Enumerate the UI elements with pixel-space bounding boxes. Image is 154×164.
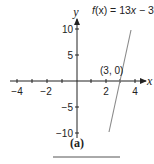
x-tick-label: 4	[132, 86, 138, 97]
x-tick-label: 2	[103, 86, 109, 97]
y-tick-label: 5	[67, 50, 73, 61]
y-axis-label: y	[72, 5, 79, 19]
y-tick-label: −5	[62, 102, 74, 113]
x-tick-label: −2	[40, 86, 52, 97]
x-axis-label: x	[146, 74, 153, 88]
function-label: f(x) = 13x − 39	[92, 4, 154, 16]
function-graph: −4 −2 2 4 10 5 −5 −10 x y f(x) = 13x − 3…	[0, 0, 154, 164]
y-tick-label: 10	[62, 24, 74, 35]
intercept-label: (3, 0)	[100, 65, 123, 76]
figure-caption: (a)	[70, 136, 84, 150]
x-tick-label: −4	[11, 86, 23, 97]
